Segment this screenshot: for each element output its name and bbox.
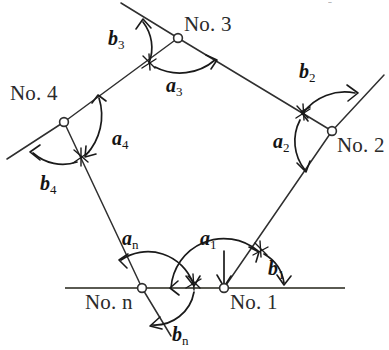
angle-label-bn-sub: n <box>182 333 189 348</box>
extension-ray-at-no4 <box>7 122 64 159</box>
angle-arc-a3 <box>155 60 215 73</box>
figure-canvas: - , , , , <box>0 0 389 350</box>
angle-label-a1-sub: 1 <box>210 237 217 252</box>
angle-label-b3: b3 <box>108 27 125 52</box>
station-marker-no2 <box>328 127 337 136</box>
angle-label-a4-base: a <box>112 127 122 149</box>
angle-label-b3-base: b <box>108 27 118 49</box>
angle-label-a2-sub: 2 <box>283 140 290 155</box>
station-marker-non <box>138 284 147 293</box>
angle-label-b1-base: b <box>268 257 278 279</box>
leg-no4-to-non <box>64 122 142 288</box>
angle-label-b4: b4 <box>40 172 57 197</box>
angle-group-b2 <box>296 85 358 121</box>
angle-group-an <box>119 252 201 290</box>
angle-arc-b4 <box>33 153 77 164</box>
station-labels: No. 1 No. 2 No. 3 No. 4 No. n <box>10 12 385 314</box>
station-label-no2: No. 2 <box>337 133 385 157</box>
angle-label-b2-base: b <box>299 60 309 82</box>
station-markers <box>60 34 337 293</box>
angle-label-a3: a3 <box>166 74 183 99</box>
extension-rays <box>7 3 384 336</box>
angle-label-bn: bn <box>172 323 189 348</box>
traverse-legs <box>64 38 332 288</box>
station-label-non: No. n <box>85 290 133 314</box>
angle-label-b4-base: b <box>40 172 50 194</box>
angle-label-a4: a4 <box>112 127 129 152</box>
extension-ray-at-non <box>142 288 171 336</box>
angle-label-a4-sub: 4 <box>122 137 129 152</box>
angle-arrow-a2-end <box>297 161 310 172</box>
angle-arc-bn <box>152 292 194 325</box>
angle-label-a2-base: a <box>273 130 283 152</box>
angle-label-bn-base: b <box>172 323 182 345</box>
station-marker-no1 <box>220 284 229 293</box>
traverse-diagram: No. 1 No. 2 No. 3 No. 4 No. n a1 a2 a3 a… <box>0 0 389 350</box>
angle-label-an: an <box>122 227 139 252</box>
station-label-no1: No. 1 <box>230 290 278 314</box>
station-marker-no4 <box>60 118 69 127</box>
angle-label-b1-sub: 1 <box>278 267 285 282</box>
angle-label-b3-sub: 3 <box>118 37 125 52</box>
angle-label-an-base: a <box>122 227 132 249</box>
station-marker-no3 <box>174 34 183 43</box>
angle-label-a1: a1 <box>200 227 217 252</box>
angle-label-a3-sub: 3 <box>176 84 183 99</box>
angle-label-b1: b1 <box>268 257 285 282</box>
angle-group-a3 <box>155 55 217 73</box>
angle-group-a1 <box>170 239 268 295</box>
angle-label-a2: a2 <box>273 130 290 155</box>
angle-label-b4-sub: 4 <box>50 182 57 197</box>
station-label-no4: No. 4 <box>10 81 58 105</box>
angle-label-b2: b2 <box>299 60 316 85</box>
angle-label-an-sub: n <box>132 237 139 252</box>
angle-group-a2 <box>295 120 310 172</box>
station-label-no3: No. 3 <box>184 12 232 36</box>
angle-label-a3-base: a <box>166 74 176 96</box>
angle-arc-b2 <box>303 92 355 113</box>
angle-label-b2-sub: 2 <box>309 70 316 85</box>
angle-group-a4 <box>73 95 106 166</box>
angle-group-b4 <box>30 145 77 164</box>
angle-label-a1-base: a <box>200 227 210 249</box>
extension-ray-at-no2 <box>332 75 384 131</box>
angle-labels-a: a1 a2 a3 a4 an <box>112 74 290 252</box>
angle-arc-a2 <box>295 120 305 170</box>
angle-arc-a4 <box>86 98 102 155</box>
leg-no1-to-no2 <box>224 131 332 288</box>
